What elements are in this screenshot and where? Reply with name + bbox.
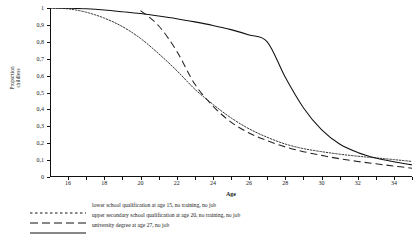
legend-item[interactable]: lower school qualification at age 15, no… [30,200,360,210]
plot-area: 00,10,20,30,40,50,60,70,80,91 1618202224… [50,8,412,177]
x-tick [86,177,87,180]
x-tick-label: 20 [131,180,151,186]
x-tick [412,177,413,180]
legend-line-sample [30,222,86,228]
legend-label: upper secondary school qualification at … [92,212,240,218]
x-tick-label: 28 [275,180,295,186]
x-tick [159,177,160,180]
x-tick-label: 26 [239,180,259,186]
y-tick-label: 0,9 [37,22,45,28]
series-line [50,8,412,165]
x-tick-label: 22 [167,180,187,186]
series-line [50,8,412,161]
x-tick-label: 18 [94,180,114,186]
x-tick [122,177,123,180]
x-tick [267,177,268,180]
series-line [141,11,413,169]
legend-line-sample [30,202,86,208]
y-axis-title: Proportion childless [9,43,21,113]
y-tick-label: 0,7 [37,56,45,62]
series-lines [50,8,412,177]
y-tick-label: 0,6 [37,73,45,79]
x-tick [340,177,341,180]
legend-item[interactable]: upper secondary school qualification at … [30,210,360,220]
chart-figure: Proportion childless 00,10,20,30,40,50,6… [0,0,415,240]
x-tick-label: 32 [348,180,368,186]
y-axis-title-line2: childless [15,43,21,113]
x-tick [303,177,304,180]
y-tick-label: 1 [41,5,44,11]
legend-item[interactable]: university degree at age 27, no job [30,220,360,230]
y-tick-label: 0,8 [37,39,45,45]
x-tick [376,177,377,180]
y-tick-label: 0,1 [37,157,45,163]
x-tick-label: 34 [384,180,404,186]
legend-label: university degree at age 27, no job [92,222,169,228]
x-tick [195,177,196,180]
x-tick-label: 16 [58,180,78,186]
x-axis-title: Age [50,191,412,197]
legend-line-sample [30,212,86,218]
y-tick-label: 0 [41,174,44,180]
x-tick-label: 24 [203,180,223,186]
x-tick-label: 30 [312,180,332,186]
y-tick-label: 0,3 [37,123,45,129]
y-tick [47,177,50,178]
chart-legend: lower school qualification at age 15, no… [30,200,360,230]
y-tick-label: 0,5 [37,90,45,96]
x-tick [231,177,232,180]
y-tick-label: 0,2 [37,140,45,146]
y-tick-label: 0,4 [37,106,45,112]
legend-label: lower school qualification at age 15, no… [92,202,216,208]
